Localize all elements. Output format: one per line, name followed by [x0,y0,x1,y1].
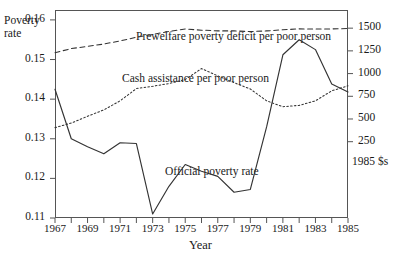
series-label-cash-assistance: Cash assistance per poor person [120,72,271,84]
y-axis-right-units: 1985 $s [352,155,388,167]
series-label-official-poverty-rate: Official poverty rate [163,165,261,177]
y-axis-right-tick-label-1: 500 [358,111,398,123]
y-axis-left-tick-label-2: 0.13 [5,131,45,143]
series-label-prewelfare-deficit: Prewelfare poverty deficit per poor pers… [134,30,333,42]
x-axis-tick-label-9: 1985 [328,222,368,234]
y-axis-right-tick-label-4: 1250 [358,43,398,55]
y-axis-left-tick-label-1: 0.12 [5,170,45,182]
y-axis-left-tick-label-3: 0.14 [5,91,45,103]
y-axis-left-tick-label-0: 0.11 [5,210,45,222]
y-axis-right-ticks [348,28,353,142]
chart-figure: Poverty rate 1985 $s Year Prewelfare pov… [0,0,401,256]
y-axis-left-title-line2: rate [4,27,54,40]
y-axis-left-tick-label-5: 0.16 [5,12,45,24]
y-axis-right-tick-label-2: 750 [358,88,398,100]
y-axis-left-tick-label-4: 0.15 [5,52,45,64]
y-axis-right-tick-label-0: 250 [358,134,398,146]
y-axis-right-tick-label-5: 1500 [358,20,398,32]
x-axis-title: Year [0,238,401,253]
y-axis-right-tick-label-3: 1000 [358,66,398,78]
